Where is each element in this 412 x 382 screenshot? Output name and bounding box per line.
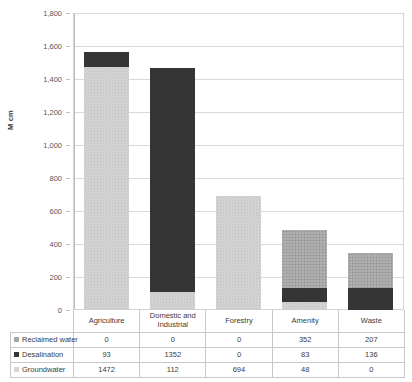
y-axis-tick-mark xyxy=(66,277,70,278)
y-axis-tick-label: 1,800 xyxy=(43,9,62,18)
gridline xyxy=(74,244,403,245)
table-row: Reclaimed water000352207 xyxy=(11,333,405,348)
table-cell: 136 xyxy=(338,348,404,363)
plot-area xyxy=(73,13,404,310)
table-cell: 207 xyxy=(338,333,404,348)
y-axis-tick-mark xyxy=(66,46,70,47)
gridline xyxy=(74,79,403,80)
y-axis-tick-mark xyxy=(66,244,70,245)
legend-label-text: Reclaimed water xyxy=(22,335,78,344)
y-axis-tick-mark xyxy=(66,79,70,80)
gridline xyxy=(74,178,403,179)
y-axis-tick-label: 1,200 xyxy=(43,108,62,117)
table-column-header: Amenity xyxy=(272,310,338,333)
table-cell: 0 xyxy=(140,333,206,348)
table-column-header: Waste xyxy=(338,310,404,333)
data-table: AgricultureDomestic and IndustrialForest… xyxy=(10,310,405,378)
table-cell: 112 xyxy=(140,363,206,378)
legend-swatch-icon xyxy=(14,352,19,357)
table-row: Desalination931352083136 xyxy=(11,348,405,363)
table-column-header: Agriculture xyxy=(74,310,140,333)
table-cell: 1472 xyxy=(74,363,140,378)
table-cell: 1352 xyxy=(140,348,206,363)
table-header-row: AgricultureDomestic and IndustrialForest… xyxy=(11,310,405,333)
legend-label-text: Desalination xyxy=(22,350,63,359)
chart-root: M cm 02004006008001,0001,2001,4001,6001,… xyxy=(0,0,412,382)
gridline xyxy=(74,112,403,113)
table-cell: 352 xyxy=(272,333,338,348)
y-axis-tick-mark xyxy=(66,112,70,113)
gridline xyxy=(74,211,403,212)
gridline xyxy=(74,13,403,14)
table-cell: 694 xyxy=(206,363,272,378)
y-axis-tick-mark xyxy=(66,145,70,146)
table-column-header: Domestic and Industrial xyxy=(140,310,206,333)
y-axis-tick-label: 1,400 xyxy=(43,75,62,84)
table-row: Groundwater1472112694480 xyxy=(11,363,405,378)
gridline xyxy=(74,46,403,47)
table-cell: 0 xyxy=(74,333,140,348)
y-axis-tick-label: 800 xyxy=(49,174,62,183)
y-axis-tick-mark xyxy=(66,211,70,212)
y-axis-tick-labels: 02004006008001,0001,2001,4001,6001,800 xyxy=(0,13,70,310)
table-corner-cell xyxy=(11,310,74,333)
table-column-header: Forestry xyxy=(206,310,272,333)
gridline xyxy=(74,277,403,278)
table-cell: 0 xyxy=(206,348,272,363)
legend-swatch-icon xyxy=(14,337,19,342)
legend-swatch-icon xyxy=(14,367,19,372)
y-axis-tick-label: 1,600 xyxy=(43,42,62,51)
table-cell: 93 xyxy=(74,348,140,363)
table-cell: 83 xyxy=(272,348,338,363)
table-cell: 0 xyxy=(206,333,272,348)
table-cell: 0 xyxy=(338,363,404,378)
legend-row-label: Desalination xyxy=(11,348,74,363)
y-axis-tick-mark xyxy=(66,178,70,179)
legend-row-label: Reclaimed water xyxy=(11,333,74,348)
y-axis-tick-label: 600 xyxy=(49,207,62,216)
y-axis-tick-label: 1,000 xyxy=(43,141,62,150)
legend-row-label: Groundwater xyxy=(11,363,74,378)
table-cell: 48 xyxy=(272,363,338,378)
gridline xyxy=(74,145,403,146)
legend-label-text: Groundwater xyxy=(22,365,65,374)
y-axis-tick-mark xyxy=(66,13,70,14)
y-axis-tick-label: 200 xyxy=(49,273,62,282)
y-axis-line xyxy=(74,14,75,309)
y-axis-tick-label: 400 xyxy=(49,240,62,249)
